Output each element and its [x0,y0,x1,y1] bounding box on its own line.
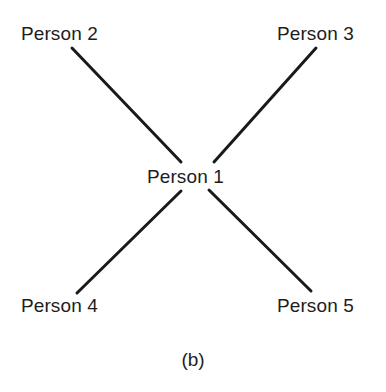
node-label-person-4: Person 4 [21,295,98,316]
node-label-person-2: Person 2 [21,23,98,44]
network-diagram-figure: Person 2 Person 3 Person 1 Person 4 Pers… [0,0,386,392]
node-label-person-3: Person 3 [277,23,354,44]
edge-person1-person2 [72,48,181,162]
figure-caption: (b) [0,349,386,371]
node-label-person-1: Person 1 [147,166,224,187]
edge-person1-person4 [77,191,181,293]
node-label-person-5: Person 5 [277,295,354,316]
edge-layer [0,0,386,392]
edge-person1-person3 [214,48,316,162]
edge-person1-person5 [209,190,311,291]
